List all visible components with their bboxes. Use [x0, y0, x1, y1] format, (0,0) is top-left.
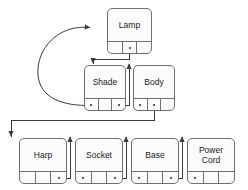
- node-socket-slot-left[interactable]: [76, 172, 92, 183]
- node-lamp-slot-left[interactable]: [108, 42, 123, 53]
- node-lamp-slot-middle[interactable]: [123, 42, 138, 53]
- connector-body-to-harp: [11, 106, 154, 137]
- node-socket-slot-middle[interactable]: [92, 172, 108, 183]
- node-harp[interactable]: Harp: [19, 138, 67, 184]
- node-body-slot-left[interactable]: [134, 99, 148, 110]
- diagram-canvas: Lamp Shade Body Harp: [0, 0, 248, 190]
- node-power-cord-slots: [188, 171, 234, 183]
- node-lamp-slot-right[interactable]: [137, 42, 151, 53]
- node-shade-slot-right[interactable]: [112, 99, 125, 110]
- node-shade[interactable]: Shade: [84, 65, 126, 111]
- node-power-cord-label: Power Cord: [188, 139, 234, 171]
- node-shade-slots: [85, 98, 125, 110]
- node-base-slot-right[interactable]: [163, 172, 178, 183]
- node-socket-slots: [76, 171, 122, 183]
- node-base-slots: [132, 171, 178, 183]
- node-socket-slot-right[interactable]: [107, 172, 122, 183]
- node-shade-slot-middle[interactable]: [99, 99, 113, 110]
- node-harp-label: Harp: [20, 139, 66, 171]
- node-harp-slots: [20, 171, 66, 183]
- node-body-label: Body: [134, 66, 174, 98]
- node-base-slot-middle[interactable]: [148, 172, 164, 183]
- node-base-slot-left[interactable]: [132, 172, 148, 183]
- node-shade-slot-left[interactable]: [85, 99, 99, 110]
- node-power-cord-slot-left[interactable]: [188, 172, 204, 183]
- node-power-cord-slot-middle[interactable]: [204, 172, 220, 183]
- node-base[interactable]: Base: [131, 138, 179, 184]
- node-socket[interactable]: Socket: [75, 138, 123, 184]
- node-shade-label: Shade: [85, 66, 125, 98]
- node-lamp-slots: [108, 41, 151, 53]
- node-power-cord[interactable]: Power Cord: [187, 138, 235, 184]
- node-lamp-label: Lamp: [108, 9, 151, 41]
- node-socket-label: Socket: [76, 139, 122, 171]
- node-harp-slot-left[interactable]: [20, 172, 36, 183]
- node-body-slot-middle[interactable]: [148, 99, 162, 110]
- node-base-label: Base: [132, 139, 178, 171]
- node-lamp[interactable]: Lamp: [107, 8, 152, 54]
- node-harp-slot-middle[interactable]: [36, 172, 52, 183]
- node-body-slot-right[interactable]: [161, 99, 174, 110]
- node-harp-slot-right[interactable]: [51, 172, 66, 183]
- node-power-cord-slot-right[interactable]: [219, 172, 234, 183]
- node-body[interactable]: Body: [133, 65, 175, 111]
- node-body-slots: [134, 98, 174, 110]
